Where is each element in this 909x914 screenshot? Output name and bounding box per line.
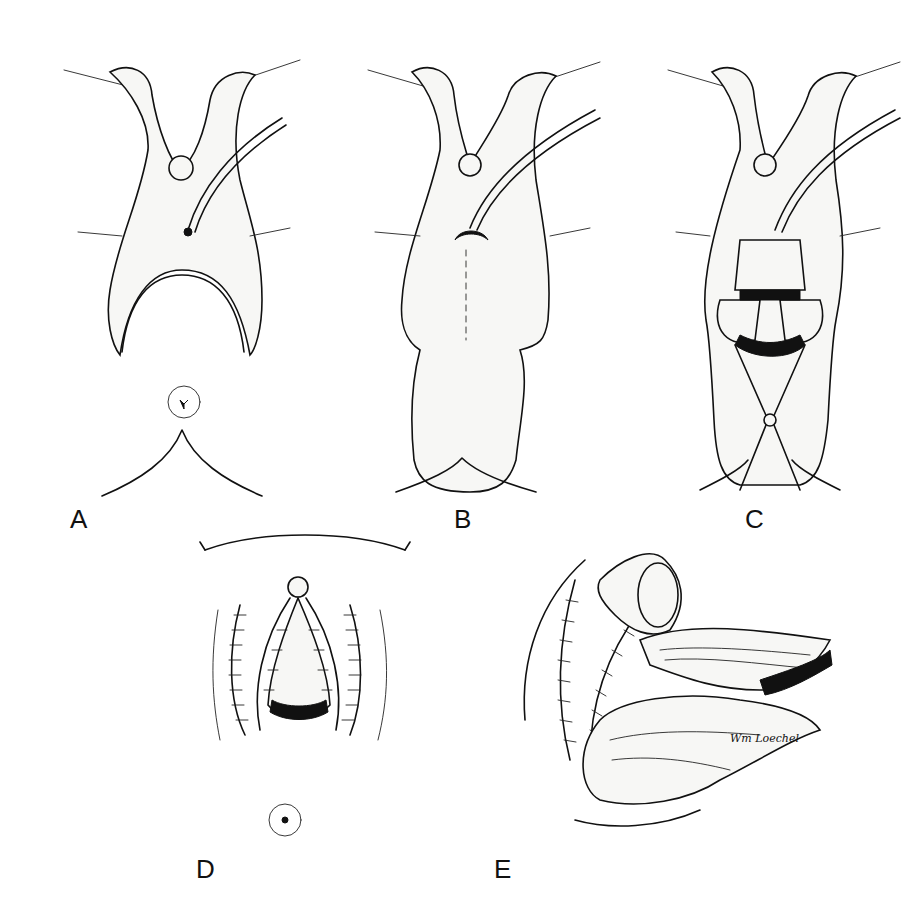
panel-label-a: A [70, 504, 88, 534]
perineal-skin-fold [102, 430, 262, 496]
panel-e: Wm Loechel E [494, 554, 832, 884]
artist-signature: Wm Loechel [730, 732, 799, 745]
panel-label-e: E [494, 854, 511, 884]
anus [168, 386, 200, 418]
panel-label-b: B [454, 504, 471, 534]
clamp-hinge [764, 414, 776, 426]
panel-d: D [196, 535, 410, 884]
rectum [583, 696, 820, 804]
panel-a: A [64, 60, 300, 534]
figure-canvas: A B C [0, 0, 909, 914]
panel-label-c: C [745, 504, 764, 534]
panel-c: C [668, 62, 900, 534]
clitoris [754, 154, 776, 176]
skin-contour [205, 535, 405, 550]
clitoris [169, 156, 193, 180]
clitoris [288, 577, 308, 597]
skin-contour [524, 560, 585, 720]
panel-label-d: D [196, 854, 215, 884]
vaginal-introitus [268, 598, 330, 716]
bladder [638, 563, 678, 627]
elevated-flap [402, 68, 556, 492]
clitoris [459, 154, 481, 176]
suture-line-outer [560, 580, 575, 760]
suture-line-outer-right [350, 605, 361, 735]
panel-b: B [368, 62, 600, 534]
suture-line-outer-left [232, 605, 245, 735]
urethral-meatus [184, 228, 192, 236]
